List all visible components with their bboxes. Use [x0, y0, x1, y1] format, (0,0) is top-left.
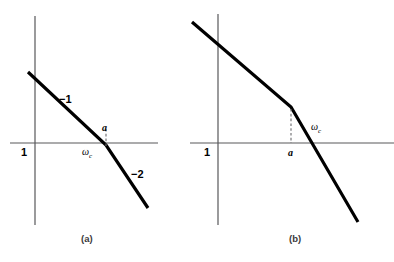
figure-root: −1 −2 1 a ωc (a) 1 a ωc (b): [0, 0, 394, 262]
panel-b-crossover-frequency-label: ωc: [311, 122, 321, 135]
panel-a-slope-minus-1-label: −1: [59, 94, 72, 105]
panel-b-omega-symbol: ω: [311, 121, 318, 132]
panel-a-unit-gain-label: 1: [21, 147, 27, 158]
panel-a-break-frequency-label: a: [102, 123, 107, 133]
panel-a-omega-subscript: c: [89, 152, 92, 160]
panel-b-asymptote-curve: [192, 22, 358, 222]
panel-a-crossover-frequency-label: ωc: [82, 147, 92, 160]
panel-b-unit-gain-label: 1: [204, 147, 210, 158]
panel-b-caption: (b): [289, 234, 301, 244]
panel-a-asymptote-curve: [28, 72, 148, 208]
panel-b-omega-subscript: c: [318, 127, 321, 135]
panel-b-break-frequency-label: a: [288, 148, 293, 158]
panel-a-caption: (a): [81, 234, 93, 244]
panel-a-slope-minus-2-label: −2: [131, 169, 144, 180]
panel-a-omega-symbol: ω: [82, 146, 89, 157]
bode-asymptote-figure: [0, 0, 394, 262]
